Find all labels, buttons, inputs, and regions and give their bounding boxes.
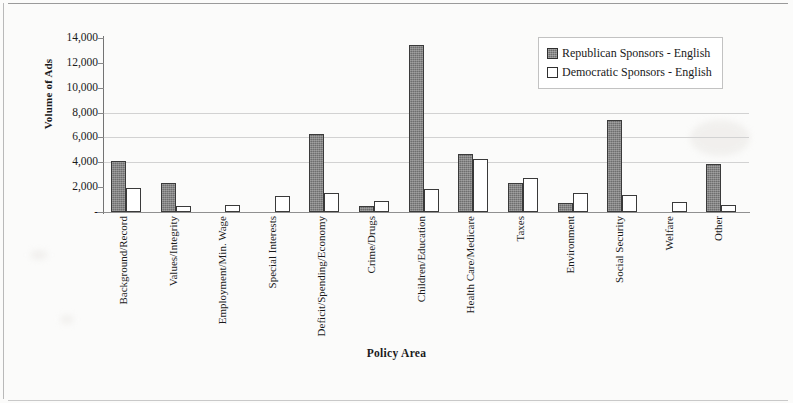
bar-republican — [161, 183, 176, 212]
x-axis-category-label: Social Security — [614, 216, 625, 283]
bar-democratic — [573, 193, 588, 212]
bar-group — [402, 38, 452, 212]
bar-group — [203, 38, 253, 212]
bar-group — [253, 38, 303, 212]
bar-group — [451, 38, 501, 212]
bar-republican — [111, 161, 126, 212]
bar-group — [154, 38, 204, 212]
x-axis-category-labels: Background/RecordValues/IntegrityEmploym… — [104, 214, 749, 342]
y-axis-tick-mark — [98, 212, 104, 213]
y-axis-tick-label: 10,000 — [40, 82, 98, 94]
y-axis-tick-label: - — [40, 206, 98, 218]
y-axis-tick-label: 14,000 — [40, 32, 98, 44]
bar-republican — [458, 154, 473, 212]
scanned-page: Volume of Ads -2,0004,0006,0008,00010,00… — [0, 0, 793, 403]
y-axis-tick-label: 6,000 — [40, 132, 98, 144]
y-axis-tick-label: 8,000 — [40, 107, 98, 119]
y-axis-tick-mark — [98, 137, 104, 138]
x-axis-category-label: Employment/Min. Wage — [217, 216, 228, 324]
y-axis-tick-mark — [98, 63, 104, 64]
bar-democratic — [622, 195, 637, 212]
x-axis-category-label: Welfare — [664, 216, 675, 251]
x-axis-title: Policy Area — [0, 347, 793, 359]
x-axis-category-label: Crime/Drugs — [366, 216, 377, 273]
y-axis-tick-mark — [98, 38, 104, 39]
bar-group — [352, 38, 402, 212]
y-axis-tick-mark — [98, 187, 104, 188]
bar-republican — [359, 206, 374, 212]
x-axis-category-label: Taxes — [515, 216, 526, 242]
x-axis-category-label: Children/Education — [416, 216, 427, 302]
bar-democratic — [225, 205, 240, 212]
legend-swatch-democratic-icon — [547, 67, 558, 78]
bar-republican — [558, 203, 573, 212]
bar-democratic — [374, 201, 389, 212]
bar-republican — [309, 134, 324, 212]
x-axis-category-label: Background/Record — [118, 216, 129, 305]
y-axis-tick-label: 2,000 — [40, 181, 98, 193]
bar-democratic — [721, 205, 736, 212]
bar-group — [104, 38, 154, 212]
y-axis-tick-mark — [98, 88, 104, 89]
bar-democratic — [672, 202, 687, 212]
x-axis-line — [104, 212, 750, 213]
bar-republican — [607, 120, 622, 212]
bar-group — [302, 38, 352, 212]
y-axis-tick-label: 12,000 — [40, 57, 98, 69]
x-axis-category-label: Deficit/Spending/Economy — [316, 216, 327, 336]
y-axis-tick-mark — [98, 113, 104, 114]
x-axis-category-label: Environment — [565, 216, 576, 273]
bar-republican — [706, 164, 721, 212]
y-axis-tick-labels: -2,0004,0006,0008,00010,00012,00014,000 — [40, 30, 98, 220]
legend-swatch-republican-icon — [547, 48, 558, 59]
bar-democratic — [473, 159, 488, 212]
bar-democratic — [126, 188, 141, 212]
bar-democratic — [275, 196, 290, 212]
bar-chart: Volume of Ads -2,0004,0006,0008,00010,00… — [0, 0, 793, 403]
bar-republican — [508, 183, 523, 212]
y-axis-tick-mark — [98, 162, 104, 163]
x-axis-category-label: Other — [713, 216, 724, 241]
legend-item: Republican Sponsors - English — [547, 44, 712, 63]
bar-republican — [409, 45, 424, 212]
bar-democratic — [424, 189, 439, 212]
x-axis-category-label: Special Interests — [267, 216, 278, 288]
bar-democratic — [324, 193, 339, 212]
legend-item: Democratic Sponsors - English — [547, 63, 712, 82]
y-axis-tick-label: 4,000 — [40, 157, 98, 169]
x-axis-category-label: Values/Integrity — [168, 216, 179, 286]
x-axis-category-label: Health Care/Medicare — [465, 216, 476, 313]
chart-legend: Republican Sponsors - English Democratic… — [538, 37, 723, 89]
legend-label-republican: Republican Sponsors - English — [562, 46, 710, 61]
bar-democratic — [176, 206, 191, 212]
legend-label-democratic: Democratic Sponsors - English — [562, 65, 712, 80]
bar-democratic — [523, 178, 538, 212]
